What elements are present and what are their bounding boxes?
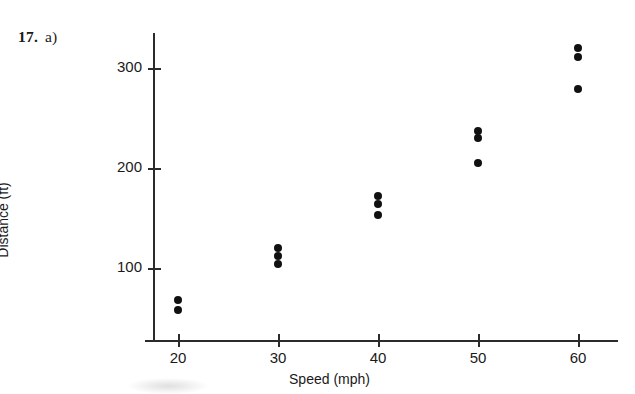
y-axis-title: Distance (ft) — [0, 120, 11, 320]
x-axis-title-text: Speed (mph) — [289, 371, 370, 387]
data-point — [274, 244, 282, 252]
y-axis-line — [153, 33, 155, 341]
x-axis-tick-label: 20 — [158, 349, 198, 366]
x-axis-tick — [478, 334, 480, 347]
x-axis-line — [145, 340, 618, 342]
x-axis-tick — [578, 334, 580, 347]
x-axis-tick-label: 50 — [458, 349, 498, 366]
x-axis-tick-label: 30 — [258, 349, 298, 366]
data-point — [474, 159, 482, 167]
data-point — [174, 296, 182, 304]
x-axis-title: Speed (mph) — [0, 371, 635, 387]
data-point — [574, 85, 582, 93]
x-axis-tick-label: 40 — [358, 349, 398, 366]
data-point — [374, 211, 382, 219]
y-axis-tick — [148, 268, 161, 270]
y-axis-tick-label: 100 — [84, 258, 142, 275]
x-axis-tick — [378, 334, 380, 347]
data-point — [174, 306, 182, 314]
data-point — [474, 134, 482, 142]
y-axis-tick-label: 300 — [84, 58, 142, 75]
y-axis-tick-label: 200 — [84, 158, 142, 175]
x-axis-tick — [278, 334, 280, 347]
y-axis-tick — [148, 168, 161, 170]
x-axis-tick — [178, 334, 180, 347]
y-axis-tick — [148, 68, 161, 70]
x-axis-tick-label: 60 — [558, 349, 598, 366]
data-point — [574, 44, 582, 52]
data-point — [374, 200, 382, 208]
data-point — [374, 192, 382, 200]
data-point — [274, 252, 282, 260]
data-point — [274, 260, 282, 268]
data-point — [574, 53, 582, 61]
